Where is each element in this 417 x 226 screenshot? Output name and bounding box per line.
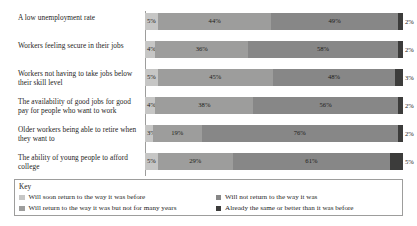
bar-segment-value: 36% [155, 46, 248, 53]
bar-track: 3%19%76%2% [145, 123, 403, 151]
bar-segment-value: 48% [273, 74, 396, 81]
bar-segment-value: 2% [405, 97, 414, 114]
stacked-bar: 5%45%48% [145, 69, 403, 86]
bar-segment: 48% [273, 69, 396, 86]
bar-segment: 76% [202, 125, 398, 142]
bar-segment-value: 3% [405, 69, 414, 86]
bar-row: Older workers being able to retire when … [18, 123, 403, 151]
bar-segment-value: 49% [271, 18, 397, 25]
bar-segment: 3% [145, 125, 153, 142]
bar-segment: 29% [158, 153, 233, 170]
legend-swatch-icon [19, 195, 25, 201]
bar-row-label: Workers feeling secure in their jobs [18, 39, 145, 50]
stacked-bar: 4%38%56% [145, 97, 403, 114]
bar-segment: 5% [145, 69, 158, 86]
bar-segment: 19% [153, 125, 202, 142]
bar-row: Workers not having to take jobs below th… [18, 67, 403, 95]
bar-segment-value: 61% [233, 158, 390, 165]
bar-segment-value: 5% [405, 153, 414, 170]
bar-track: 5%44%49%2% [145, 11, 403, 39]
bar-segment: 4% [145, 97, 155, 114]
bar-row: The availability of good jobs for good p… [18, 95, 403, 123]
bar-segment-value: 56% [253, 102, 397, 109]
bar-track: 4%38%56%2% [145, 95, 403, 123]
bar-segment: 58% [248, 41, 398, 58]
stacked-bar-chart: A low unemployment rate5%44%49%2%Workers… [0, 0, 417, 226]
bar-segment-value: 45% [158, 74, 273, 81]
legend-item: Will return to the way it was but not fo… [19, 203, 210, 214]
bar-segment-value: 76% [202, 130, 398, 137]
bar-segment-value: 2% [405, 13, 414, 30]
bar-segment: 49% [271, 13, 397, 30]
legend-swatch-icon [216, 195, 222, 201]
chart-legend: Key Will soon return to the way it was b… [14, 179, 403, 216]
bar-track: 4%36%58%2% [145, 39, 403, 67]
bar-segment [398, 41, 403, 58]
bar-segment [398, 97, 403, 114]
stacked-bar: 5%44%49% [145, 13, 403, 30]
bar-segment-value: 5% [145, 74, 158, 81]
bar-segment [395, 69, 403, 86]
bar-segment-value: 2% [405, 125, 414, 142]
bar-segment-value: 19% [153, 130, 202, 137]
legend-item-label: Will soon return to the way it was befor… [29, 194, 146, 201]
bar-segment-value: 5% [145, 18, 158, 25]
bar-segment [398, 13, 403, 30]
bar-segment-value: 38% [155, 102, 253, 109]
legend-swatch-icon [19, 206, 25, 212]
legend-title: Key [19, 182, 31, 191]
bar-track: 5%45%48%3% [145, 67, 403, 95]
bar-segment: 36% [155, 41, 248, 58]
bar-row-label: A low unemployment rate [18, 11, 145, 22]
legend-item: Will not return to the way it was [210, 192, 401, 203]
bar-segment-value: 2% [405, 41, 414, 58]
bar-row-label: The ability of young people to afford co… [18, 151, 145, 172]
bar-segment-value: 4% [145, 102, 156, 109]
stacked-bar: 4%36%58% [145, 41, 403, 58]
legend-item-label: Will not return to the way it was [225, 194, 317, 201]
bar-segment [390, 153, 403, 170]
bar-segment: 44% [158, 13, 272, 30]
bar-segment-value: 58% [248, 46, 398, 53]
legend-swatch-icon [216, 206, 222, 212]
bar-segment-value: 29% [158, 158, 233, 165]
bar-segment: 56% [253, 97, 397, 114]
bar-segment: 5% [145, 13, 158, 30]
bar-segment [398, 125, 403, 142]
bar-row: The ability of young people to afford co… [18, 151, 403, 179]
stacked-bar: 5%29%61% [145, 153, 403, 170]
bar-segment-value: 44% [158, 18, 272, 25]
bar-segment: 4% [145, 41, 155, 58]
legend-items: Will soon return to the way it was befor… [19, 192, 400, 214]
bar-row-label: Workers not having to take jobs below th… [18, 67, 145, 88]
bar-track: 5%29%61%5% [145, 151, 403, 179]
legend-item: Will soon return to the way it was befor… [19, 192, 210, 203]
bar-segment-value: 5% [145, 158, 158, 165]
bar-rows: A low unemployment rate5%44%49%2%Workers… [18, 11, 403, 179]
bar-row-label: Older workers being able to retire when … [18, 123, 145, 144]
stacked-bar: 3%19%76% [145, 125, 403, 142]
bar-segment: 38% [155, 97, 253, 114]
legend-item-label: Already the same or better than it was b… [225, 205, 354, 212]
bar-row-label: The availability of good jobs for good p… [18, 95, 145, 116]
legend-item: Already the same or better than it was b… [210, 203, 401, 214]
bar-segment: 5% [145, 153, 158, 170]
legend-item-label: Will return to the way it was but not fo… [29, 205, 177, 212]
bar-segment: 45% [158, 69, 273, 86]
bar-segment-value: 4% [145, 46, 156, 53]
bar-row: A low unemployment rate5%44%49%2% [18, 11, 403, 39]
bar-segment: 61% [233, 153, 390, 170]
bar-row: Workers feeling secure in their jobs4%36… [18, 39, 403, 67]
